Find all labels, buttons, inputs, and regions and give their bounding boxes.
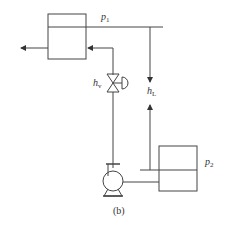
pump-icon	[103, 164, 123, 196]
process-diagram	[0, 0, 227, 229]
figure-caption: (b)	[113, 206, 125, 216]
control-valve-icon	[107, 74, 128, 92]
lower-tank	[159, 146, 197, 191]
upper-tank	[48, 14, 86, 59]
hv-label: hv	[93, 78, 102, 90]
p2-label: p2	[205, 157, 214, 169]
hl-label: hL	[147, 86, 156, 98]
inlet-pipe	[88, 48, 113, 75]
p1-label: p1	[101, 12, 110, 24]
